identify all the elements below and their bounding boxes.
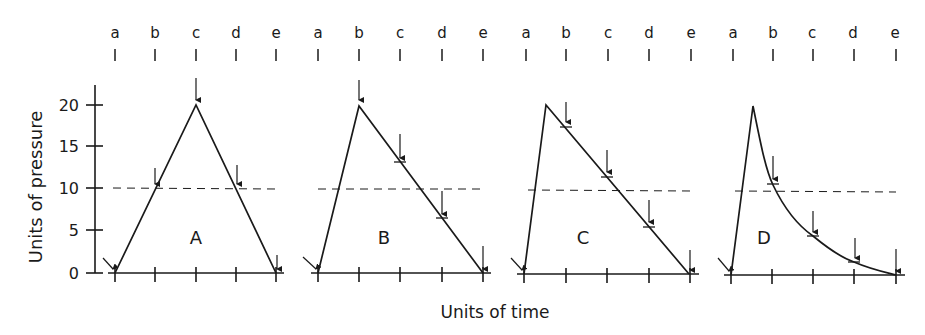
time-marks-a — [115, 49, 276, 61]
time-label-d: d — [848, 24, 858, 42]
panel-label-d: D — [757, 227, 771, 248]
panel-label-c: C — [577, 227, 590, 248]
panel-d: a b c d e D — [718, 24, 905, 284]
time-label-a: a — [521, 24, 530, 42]
time-label-a: a — [728, 24, 737, 42]
time-labels-d: a b c d e — [728, 24, 899, 42]
panel-c: a b c d e C — [511, 24, 699, 283]
time-label-a: a — [110, 24, 119, 42]
time-label-e: e — [271, 24, 280, 42]
time-label-b: b — [561, 24, 571, 42]
y-tick-0: 0 — [69, 264, 79, 283]
time-label-e: e — [686, 24, 695, 42]
baseline-b — [311, 267, 491, 282]
y-tick-15: 15 — [59, 137, 79, 156]
y-tick-10: 10 — [59, 179, 79, 198]
time-label-b: b — [150, 24, 160, 42]
panel-label-b: B — [378, 227, 390, 248]
time-marks-d — [733, 49, 896, 61]
y-axis-label: Units of pressure — [25, 111, 46, 264]
time-label-e: e — [478, 24, 487, 42]
y-tick-labels: 0 5 10 15 20 — [59, 96, 79, 283]
pressure-curve-d — [731, 106, 896, 275]
time-label-d: d — [644, 24, 654, 42]
time-marks-c — [526, 49, 691, 61]
y-axis — [86, 85, 103, 273]
baseline-a — [108, 267, 284, 282]
y-tick-20: 20 — [59, 96, 79, 115]
time-labels-c: a b c d e — [521, 24, 695, 42]
time-marks-b — [318, 49, 483, 61]
pressure-curve-c — [524, 105, 689, 274]
x-axis-label: Units of time — [440, 302, 549, 322]
baseline-c — [517, 268, 699, 283]
arrows-b — [303, 80, 483, 269]
time-label-e: e — [890, 24, 899, 42]
time-label-c: c — [604, 24, 612, 42]
time-label-c: c — [808, 24, 816, 42]
threshold-line-d — [735, 191, 896, 192]
panel-a: a b c d e A — [103, 24, 284, 282]
baseline-d — [724, 269, 905, 284]
time-label-b: b — [354, 24, 364, 42]
y-tick-5: 5 — [69, 221, 79, 240]
curve-ticks-c — [560, 127, 655, 227]
time-label-b: b — [768, 24, 778, 42]
time-labels-a: a b c d e — [110, 24, 280, 42]
time-labels-b: a b c d e — [313, 24, 487, 42]
time-label-c: c — [192, 24, 200, 42]
time-label-d: d — [231, 24, 241, 42]
panel-b: a b c d e B — [303, 24, 491, 282]
threshold-line-c — [528, 190, 690, 191]
pressure-time-diagram: 0 5 10 15 20 Units of pressure Units of … — [0, 0, 925, 335]
time-label-d: d — [437, 24, 447, 42]
time-label-c: c — [396, 24, 404, 42]
time-label-a: a — [313, 24, 322, 42]
arrows-c — [511, 102, 690, 270]
threshold-line-a — [113, 188, 276, 189]
panel-label-a: A — [190, 227, 203, 248]
